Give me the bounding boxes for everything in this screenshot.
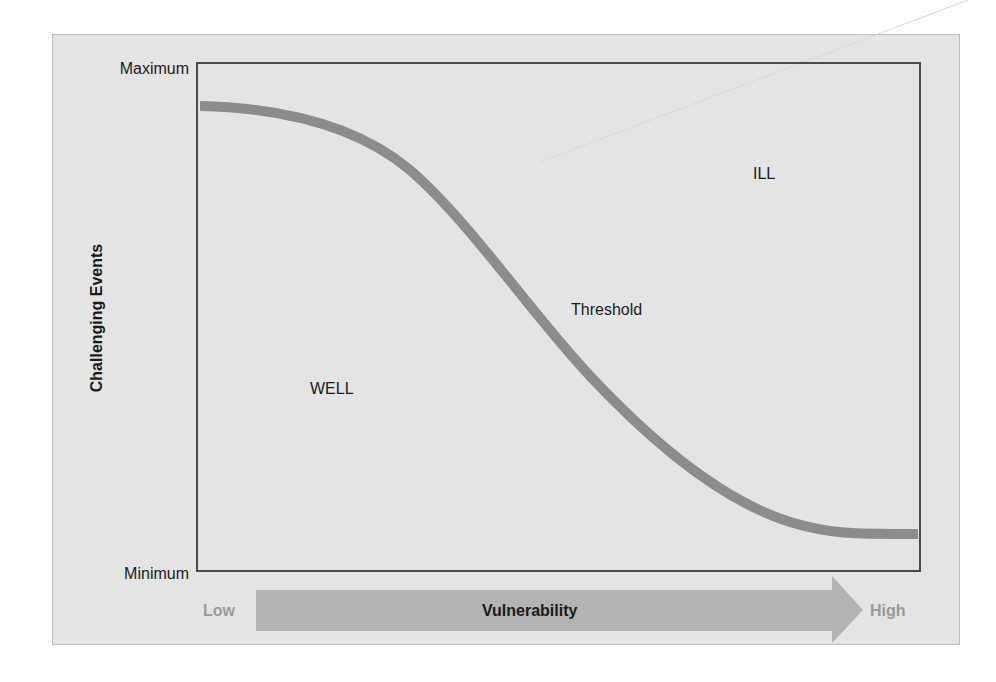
y-axis-max-label: Maximum bbox=[49, 61, 189, 77]
y-axis-min-label: Minimum bbox=[49, 566, 189, 582]
plot-frame bbox=[196, 62, 921, 572]
region-label-well: WELL bbox=[310, 381, 354, 397]
x-axis-high-label: High bbox=[870, 603, 906, 619]
region-label-threshold: Threshold bbox=[571, 302, 642, 318]
x-axis-low-label: Low bbox=[203, 603, 235, 619]
x-axis-title: Vulnerability bbox=[482, 603, 577, 619]
y-axis-title: Challenging Events bbox=[89, 244, 105, 392]
region-label-ill: ILL bbox=[753, 166, 775, 182]
